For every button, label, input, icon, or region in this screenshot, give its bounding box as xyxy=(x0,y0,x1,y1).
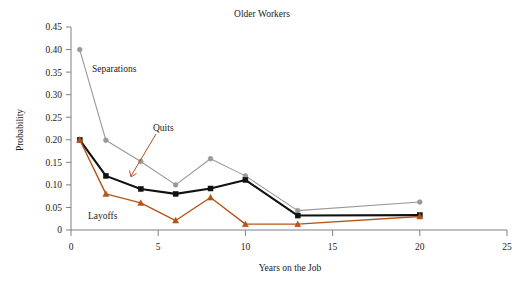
data-point-marker xyxy=(208,156,213,161)
data-point-marker xyxy=(243,177,248,182)
y-tick-label: 0.20 xyxy=(45,135,62,145)
y-tick-label: 0.10 xyxy=(45,180,62,190)
x-tick-label: 25 xyxy=(502,242,512,252)
data-point-marker xyxy=(138,186,143,191)
x-tick-label: 10 xyxy=(241,242,251,252)
data-point-marker xyxy=(103,173,108,178)
data-point-marker xyxy=(103,138,108,143)
y-tick-label: 0.15 xyxy=(45,158,62,168)
x-tick-label: 15 xyxy=(328,242,338,252)
y-tick-label: 0 xyxy=(57,225,62,235)
annotation-separations: Separations xyxy=(92,64,137,74)
chart-container: Older Workers 00.050.100.150.200.250.300… xyxy=(0,0,524,290)
annotation-quits: Quits xyxy=(153,123,174,133)
data-point-marker xyxy=(295,208,300,213)
data-point-marker xyxy=(77,47,82,52)
chart-background xyxy=(0,0,524,290)
chart-title: Older Workers xyxy=(234,9,290,19)
x-tick-label: 5 xyxy=(156,242,161,252)
data-point-marker xyxy=(173,191,178,196)
data-point-marker xyxy=(173,182,178,187)
data-point-marker xyxy=(208,186,213,191)
older-workers-line-chart: Older Workers 00.050.100.150.200.250.300… xyxy=(0,0,524,290)
y-tick-label: 0.05 xyxy=(45,203,62,213)
y-axis-title: Probability xyxy=(15,109,25,151)
y-tick-label: 0.30 xyxy=(45,90,62,100)
y-tick-label: 0.25 xyxy=(45,113,62,123)
data-point-marker xyxy=(417,200,422,205)
x-axis-title: Years on the Job xyxy=(259,263,322,273)
y-tick-label: 0.45 xyxy=(45,22,62,32)
y-tick-label: 0.35 xyxy=(45,68,62,78)
data-point-marker xyxy=(295,213,300,218)
x-tick-label: 0 xyxy=(69,242,74,252)
y-tick-label: 0.40 xyxy=(45,45,62,55)
x-tick-label: 20 xyxy=(415,242,425,252)
annotation-layoffs: Layoffs xyxy=(88,211,118,221)
